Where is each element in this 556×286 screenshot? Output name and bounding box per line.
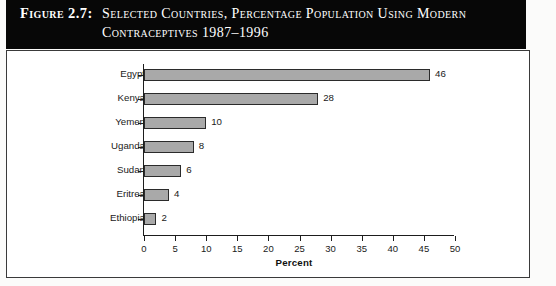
x-axis-tick (424, 236, 425, 241)
x-axis-tick-label: 25 (285, 243, 315, 254)
bar-row: Sudan6 (7, 160, 531, 184)
bar (144, 141, 194, 153)
x-axis-tick (300, 236, 301, 241)
figure-title-bar: Figure 2.7: Selected Countries, Percenta… (6, 0, 526, 49)
y-axis-tick (138, 75, 143, 76)
x-axis-tick (362, 236, 363, 241)
bar-chart-plot: Egypt46Kenya28Yemen10Uganda8Sudan6Eritre… (7, 51, 531, 279)
x-axis-tick-label: 5 (160, 243, 190, 254)
bar (144, 117, 206, 129)
category-label: Uganda (25, 140, 145, 151)
category-label: Eritrea (25, 188, 145, 199)
category-label: Sudan (25, 164, 145, 175)
x-axis-tick-label: 35 (347, 243, 377, 254)
bar-row: Kenya28 (7, 88, 531, 112)
chart-frame: Egypt46Kenya28Yemen10Uganda8Sudan6Eritre… (6, 50, 530, 278)
x-axis-tick-label: 45 (409, 243, 439, 254)
x-axis-tick (206, 236, 207, 241)
bar-value-label: 8 (199, 140, 204, 151)
x-axis-tick (175, 236, 176, 241)
bar-value-label: 46 (435, 68, 446, 79)
y-axis-tick (138, 147, 143, 148)
category-label: Yemen (25, 116, 145, 127)
y-axis-tick (138, 219, 143, 220)
category-label: Egypt (25, 68, 145, 79)
x-axis-tick-label: 10 (191, 243, 221, 254)
x-axis-title-text: Percent (276, 257, 313, 268)
x-axis-tick-label: 30 (316, 243, 346, 254)
y-axis-tick (138, 171, 143, 172)
y-axis-tick (138, 195, 143, 196)
bar-row: Eritrea4 (7, 184, 531, 208)
figure-title-line-1: Selected Countries, Percentage Populatio… (102, 6, 466, 22)
x-axis-tick-label: 15 (222, 243, 252, 254)
x-axis-tick (393, 236, 394, 241)
x-axis-tick-label: 50 (440, 243, 470, 254)
bar-value-label: 6 (186, 164, 191, 175)
x-axis-line (143, 235, 454, 236)
x-axis-tick (455, 236, 456, 241)
bar-value-label: 10 (211, 116, 222, 127)
x-axis-tick-label: 20 (253, 243, 283, 254)
bar (144, 213, 156, 225)
bar (144, 69, 430, 81)
x-axis-title: Percent (7, 257, 531, 268)
bar-row: Yemen10 (7, 112, 531, 136)
x-axis-tick (237, 236, 238, 241)
bar-value-label: 2 (161, 212, 166, 223)
x-axis-tick-label: 0 (129, 243, 159, 254)
bar-row: Ethiopia2 (7, 208, 531, 232)
bar (144, 93, 318, 105)
figure-container: Figure 2.7: Selected Countries, Percenta… (0, 0, 556, 286)
y-axis-tick (138, 123, 143, 124)
y-axis-tick (138, 99, 143, 100)
bar-row: Uganda8 (7, 136, 531, 160)
category-label: Ethiopia (25, 212, 145, 223)
figure-title-line-2: Contraceptives 1987–1996 (102, 25, 269, 41)
bar-value-label: 28 (323, 92, 334, 103)
bar-row: Egypt46 (7, 64, 531, 88)
x-axis-tick (268, 236, 269, 241)
figure-number-label: Figure 2.7: (20, 5, 93, 22)
x-axis-tick (331, 236, 332, 241)
x-axis-tick (144, 236, 145, 241)
x-axis-tick-label: 40 (378, 243, 408, 254)
bar (144, 165, 181, 177)
category-label: Kenya (25, 92, 145, 103)
bar-value-label: 4 (174, 188, 179, 199)
bar (144, 189, 169, 201)
